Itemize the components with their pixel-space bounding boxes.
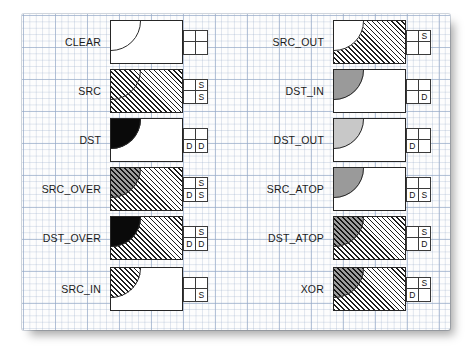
mode-label: SRC_OUT: [245, 37, 333, 48]
composite-figure: [110, 167, 183, 211]
key-cell: D: [184, 189, 196, 201]
key-wrapper: D: [406, 128, 435, 153]
mode-label: DST_OVER: [22, 233, 110, 244]
key-cell: D: [419, 91, 431, 103]
key-cell: [184, 80, 196, 92]
key-cell: [407, 91, 419, 103]
mode-label: DST_IN: [245, 86, 333, 97]
key-wrapper: SDS: [183, 177, 212, 202]
mode-label: DST_ATOP: [245, 233, 333, 244]
quadrant-key: [183, 30, 208, 55]
key-cell: D: [407, 140, 419, 152]
key-cell: [196, 129, 208, 141]
mode-row: DST_ATOPSD: [245, 214, 435, 262]
key-cell: S: [196, 289, 208, 301]
key-cell: S: [196, 91, 208, 103]
diagram-root: CLEARSRCSSDSTDDSRC_OVERSDSDST_OVERSDDSRC…: [0, 0, 474, 354]
key-cell: [196, 42, 208, 54]
composite-figure: [110, 20, 183, 64]
key-cell: [184, 129, 196, 141]
key-wrapper: SD: [406, 226, 435, 251]
quadrant-key: SDS: [183, 177, 208, 202]
mode-label: SRC_ATOP: [245, 184, 333, 195]
key-cell: S: [196, 80, 208, 92]
composite-figure: [110, 267, 183, 311]
quadrant-key: DD: [183, 128, 208, 153]
composite-figure: [333, 118, 406, 162]
key-wrapper: D: [406, 79, 435, 104]
key-cell: [407, 31, 419, 43]
quadrant-key: S: [183, 277, 208, 302]
key-cell: D: [196, 238, 208, 250]
mode-row: SRC_INS: [22, 265, 212, 313]
key-cell: D: [184, 238, 196, 250]
key-cell: [196, 278, 208, 290]
mode-row: SRC_OVERSDS: [22, 165, 212, 213]
key-cell: D: [419, 238, 431, 250]
key-cell: [407, 178, 419, 190]
key-wrapper: SD: [406, 277, 435, 302]
mode-row: DSTDD: [22, 116, 212, 164]
key-cell: [184, 178, 196, 190]
key-cell: S: [419, 189, 431, 201]
quadrant-key: SD: [406, 226, 431, 251]
quadrant-key: DS: [406, 177, 431, 202]
composite-figure: [333, 69, 406, 113]
key-cell: [419, 129, 431, 141]
quadrant-key: S: [406, 30, 431, 55]
key-cell: S: [196, 227, 208, 239]
key-cell: [419, 289, 431, 301]
key-cell: D: [407, 289, 419, 301]
mode-label: DST: [22, 135, 110, 146]
key-cell: [184, 278, 196, 290]
composite-figure: [110, 216, 183, 260]
key-cell: [407, 238, 419, 250]
key-cell: S: [196, 178, 208, 190]
composite-figure: [333, 216, 406, 260]
key-cell: D: [184, 140, 196, 152]
key-cell: S: [419, 278, 431, 290]
quadrant-key: SD: [406, 277, 431, 302]
key-cell: [184, 227, 196, 239]
key-cell: [407, 80, 419, 92]
mode-row: XORSD: [245, 265, 435, 313]
mode-label: SRC: [22, 86, 110, 97]
key-wrapper: S: [183, 277, 212, 302]
mode-row: DST_OUTD: [245, 116, 435, 164]
quadrant-key: D: [406, 128, 431, 153]
key-cell: S: [196, 189, 208, 201]
mode-label: DST_OUT: [245, 135, 333, 146]
key-wrapper: [183, 30, 212, 55]
key-wrapper: SS: [183, 79, 212, 104]
key-cell: [419, 80, 431, 92]
key-cell: [184, 289, 196, 301]
key-cell: [184, 42, 196, 54]
mode-row: SRC_OUTS: [245, 18, 435, 66]
quadrant-key: D: [406, 79, 431, 104]
key-cell: [407, 227, 419, 239]
key-cell: [419, 178, 431, 190]
mode-label: SRC_IN: [22, 284, 110, 295]
mode-row: DST_OVERSDD: [22, 214, 212, 262]
composite-figure: [333, 167, 406, 211]
key-cell: [196, 31, 208, 43]
mode-row: DST_IND: [245, 67, 435, 115]
composite-figure: [333, 20, 406, 64]
quadrant-key: SDD: [183, 226, 208, 251]
key-cell: S: [419, 31, 431, 43]
key-cell: [419, 42, 431, 54]
composite-figure: [110, 69, 183, 113]
key-cell: S: [419, 227, 431, 239]
key-cell: [407, 129, 419, 141]
key-cell: D: [407, 189, 419, 201]
quadrant-key: SS: [183, 79, 208, 104]
mode-label: XOR: [245, 284, 333, 295]
mode-row: SRC_ATOPDS: [245, 165, 435, 213]
key-cell: [419, 140, 431, 152]
key-cell: [184, 31, 196, 43]
key-wrapper: DD: [183, 128, 212, 153]
composite-figure: [333, 267, 406, 311]
key-wrapper: SDD: [183, 226, 212, 251]
mode-label: CLEAR: [22, 37, 110, 48]
key-cell: [184, 91, 196, 103]
